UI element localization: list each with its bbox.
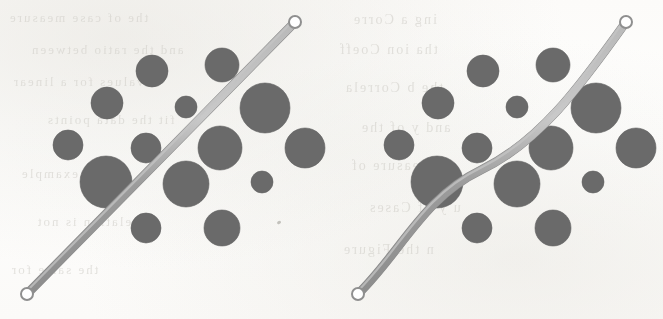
bubble-marker (136, 55, 168, 87)
bubble-marker (506, 96, 528, 118)
bubble-marker (198, 126, 242, 170)
bubble-marker (240, 83, 290, 133)
linear-fit-plot (0, 0, 331, 319)
bubble-group (53, 48, 325, 246)
curved-fit-plot (331, 0, 663, 319)
figure-root: the of case measureand the ratio between… (0, 0, 663, 319)
bubble-marker (536, 48, 570, 82)
bubble-marker (422, 87, 454, 119)
fit-line-endpoint-start (21, 288, 33, 300)
bubble-marker (205, 48, 239, 82)
bubble-marker (53, 130, 83, 160)
bubble-marker (384, 130, 414, 160)
bubble-marker (582, 171, 604, 193)
bubble-marker (616, 128, 656, 168)
bubble-marker (462, 133, 492, 163)
bubble-marker (175, 96, 197, 118)
fit-line-endpoint-start (352, 288, 364, 300)
curved-fit-panel (331, 0, 663, 319)
bubble-marker (163, 161, 209, 207)
fit-line-endpoint-end (289, 16, 301, 28)
bubble-marker (494, 161, 540, 207)
linear-fit-panel (0, 0, 331, 319)
fit-line-endpoint-end (620, 16, 632, 28)
bubble-marker (285, 128, 325, 168)
bubble-marker (467, 55, 499, 87)
bubble-marker (251, 171, 273, 193)
bubble-marker (462, 213, 492, 243)
bubble-marker (535, 210, 571, 246)
bubble-marker (131, 213, 161, 243)
bubble-marker (91, 87, 123, 119)
bubble-marker (204, 210, 240, 246)
